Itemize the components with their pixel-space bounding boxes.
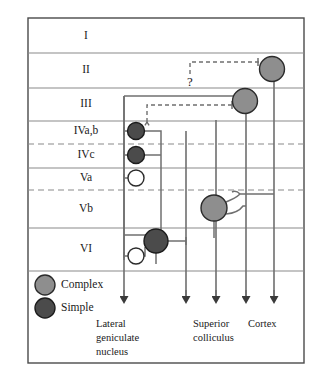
dashed-arrow-into-ivab — [144, 122, 150, 127]
vb-dendrite-upper — [226, 194, 246, 202]
vb-dendrite-lower — [226, 206, 246, 214]
layer-label-ivc: IVc — [77, 148, 94, 160]
layer-label-iii: III — [80, 97, 92, 109]
dashed-feedback-layer-iii — [147, 105, 232, 122]
projection-target-labels: Lateral geniculate nucleus Superior coll… — [96, 318, 277, 357]
uncertain-connection-question-mark: ? — [187, 74, 193, 89]
label-lgn-line-1: Lateral — [96, 318, 126, 329]
vb-yoke — [232, 191, 240, 194]
legend-swatch-simple — [35, 298, 55, 318]
layer-label-ii: II — [82, 63, 90, 75]
circuit-diagram-canvas: I II III IVa,b IVc Va Vb VI — [0, 0, 332, 381]
cell-simple-layer-ivab — [128, 123, 145, 140]
label-cortex: Cortex — [248, 318, 277, 329]
legend-label-simple: Simple — [61, 301, 94, 314]
layer-label-vb: Vb — [79, 202, 93, 214]
layer-label-i: I — [84, 29, 88, 41]
layer-label-ivab: IVa,b — [74, 124, 99, 137]
cell-simple-layer-ivc — [128, 147, 145, 164]
legend: Complex Simple — [35, 275, 103, 318]
layer-label-va: Va — [80, 171, 92, 183]
cell-complex-layer-iii — [233, 89, 258, 114]
label-sc-line-1: Superior — [193, 318, 230, 329]
legend-swatch-complex — [35, 275, 55, 295]
cell-open-layer-vi — [128, 248, 144, 264]
cell-complex-layer-ii — [260, 57, 285, 82]
legend-label-complex: Complex — [61, 278, 103, 291]
cell-open-layer-va — [128, 170, 144, 186]
visual-cortex-diagram: I II III IVa,b IVc Va Vb VI — [0, 0, 332, 381]
collateral-ivab-right — [145, 131, 161, 167]
label-lgn-line-2: geniculate — [96, 332, 139, 343]
dashed-feedback-layer-ii — [190, 62, 259, 74]
label-lgn-line-3: nucleus — [96, 346, 128, 357]
cell-simple-layer-vi — [144, 229, 168, 253]
projection-arrowheads — [124, 290, 274, 297]
label-sc-line-2: colliculus — [193, 332, 234, 343]
layer-labels: I II III IVa,b IVc Va Vb VI — [74, 29, 99, 254]
cell-complex-layer-vb — [201, 195, 227, 221]
layer-label-vi: VI — [80, 242, 92, 254]
